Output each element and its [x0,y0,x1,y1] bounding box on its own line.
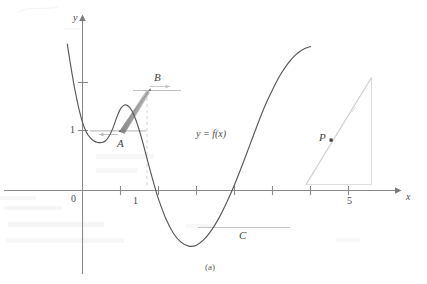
secant-chord-ab [119,89,151,133]
x-axis-label: x [406,192,410,202]
point-marker-p [330,139,333,142]
figure-container: y x 0 1 5 1 A B C P y = f(x) (a) [0,0,427,284]
figure-caption: (a) [205,263,215,272]
function-label: y = f(x) [196,129,226,139]
point-label-c: C [239,230,246,241]
axes-group [4,20,396,274]
secant-arrow-a [99,133,118,137]
graph-canvas [0,0,427,284]
point-marker-b [149,89,151,91]
x-tick-label-1: 1 [133,196,138,206]
function-curve [67,44,310,246]
point-marker-a [119,130,121,132]
x-tick-label-5: 5 [347,196,352,206]
y-axis-label: y [73,13,77,23]
secant-shaded-wedge [119,89,151,135]
point-label-p: P [319,132,326,143]
point-label-a: A [117,138,124,149]
tangent-triangle-p [306,78,372,185]
origin-label: 0 [71,194,76,204]
page-bleed-artifacts [0,7,360,243]
point-label-b: B [154,72,161,83]
tangent-line-p [306,78,372,185]
secant-arrow-b [150,85,170,89]
y-tick-label-1: 1 [70,125,75,135]
